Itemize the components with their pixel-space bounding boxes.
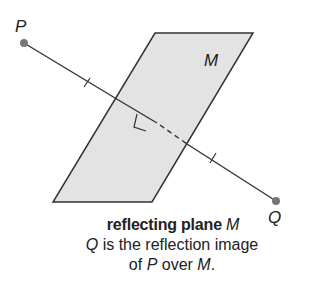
caption-line-3-end: . <box>211 256 215 273</box>
segment-plane-to-q <box>187 144 276 201</box>
caption-line-2-text: is the reflection image <box>98 236 258 253</box>
caption-line-2: Q is the reflection image <box>0 235 310 255</box>
reflecting-plane <box>53 33 253 202</box>
caption-title-var: M <box>226 216 239 233</box>
caption-title-text: reflecting plane <box>107 216 226 233</box>
caption-line-3-mid: over <box>157 256 197 273</box>
caption-line-3: of P over M. <box>0 255 310 275</box>
caption-var-m: M <box>197 256 210 273</box>
caption-line-3-pre: of <box>129 256 147 273</box>
point-p <box>20 39 28 47</box>
caption-var-p: P <box>147 256 158 273</box>
caption-title: reflecting plane M <box>0 215 310 235</box>
label-p: P <box>15 17 27 36</box>
label-m: M <box>204 51 219 70</box>
caption: reflecting plane M Q is the reflection i… <box>0 215 310 275</box>
caption-var-q: Q <box>86 236 98 253</box>
point-q <box>272 197 280 205</box>
segment-p-to-plane <box>24 43 115 98</box>
